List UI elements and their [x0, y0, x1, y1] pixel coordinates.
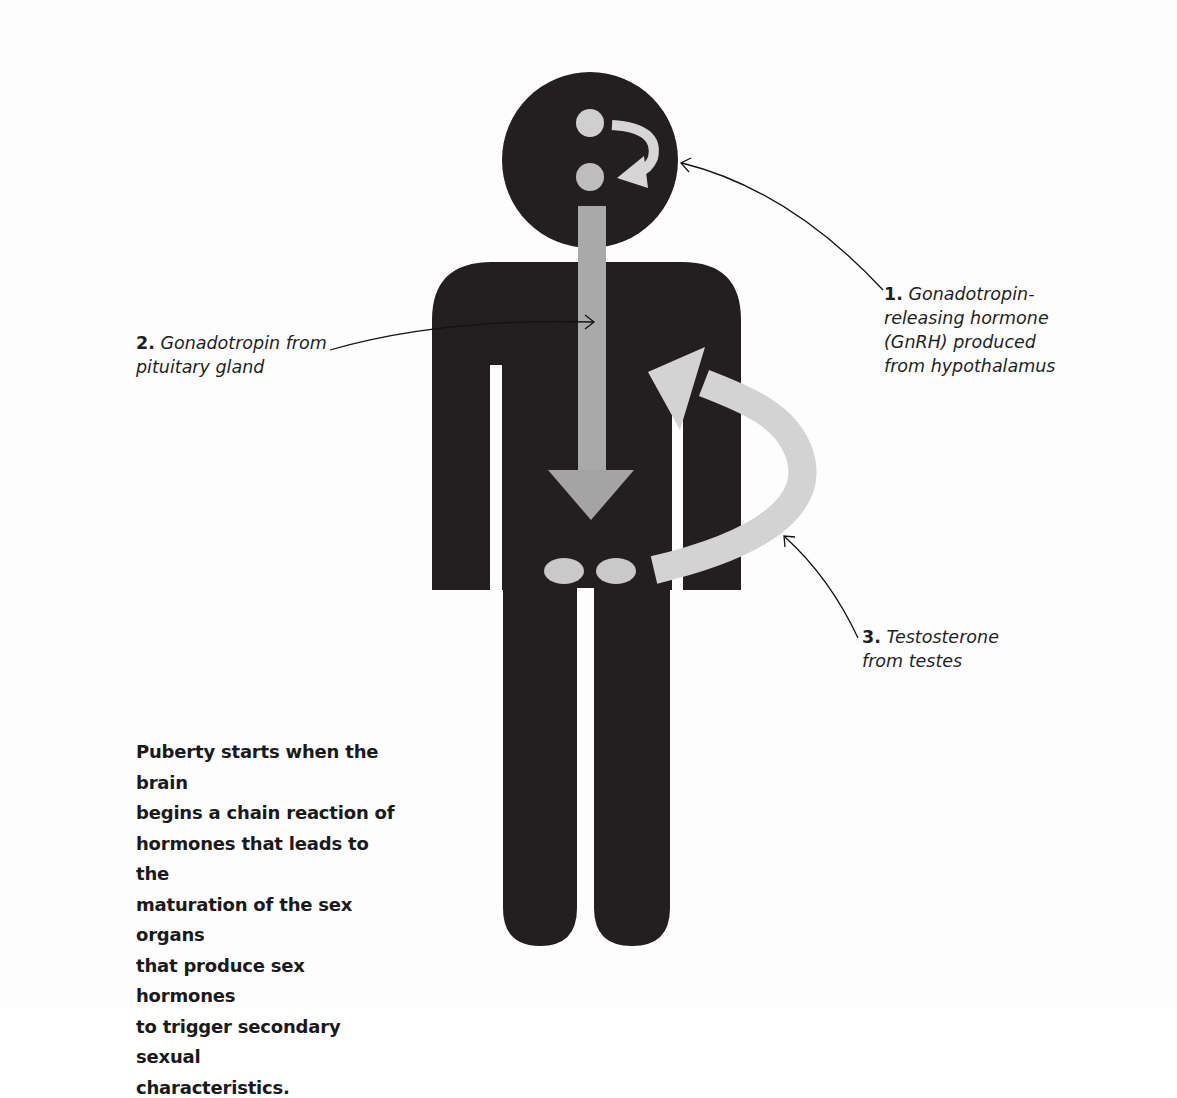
caption-line: to trigger secondary sexual: [136, 1012, 396, 1073]
label-gonadotropin: 2. Gonadotropin from pituitary gland: [136, 331, 327, 379]
caption-line: begins a chain reaction of: [136, 798, 396, 829]
right-leg: [594, 580, 670, 946]
label-3-line1: Testosterone: [886, 627, 999, 647]
label-1-line4: from hypothalamus: [884, 356, 1055, 376]
left-arm-gap: [490, 365, 502, 590]
caption-line: Puberty starts when the brain: [136, 737, 396, 798]
caption-line: characteristics.: [136, 1073, 396, 1098]
hypothalamus-gland: [576, 109, 604, 137]
label-gnrh: 1. Gonadotropin- releasing hormone (GnRH…: [884, 282, 1055, 378]
label-testosterone: 3. Testosterone from testes: [862, 625, 999, 673]
caption-text: Puberty starts when the brain begins a c…: [136, 737, 396, 1098]
leader-line-3: [785, 537, 858, 638]
label-1-number: 1.: [884, 284, 903, 304]
label-1-line2: releasing hormone: [884, 308, 1049, 328]
torso-left-shadow: [432, 560, 490, 590]
left-leg: [503, 580, 577, 946]
label-3-number: 3.: [862, 627, 881, 647]
testis-right: [596, 558, 636, 584]
label-2-number: 2.: [136, 333, 155, 353]
pituitary-gland: [576, 163, 604, 191]
caption-line: maturation of the sex organs: [136, 890, 396, 951]
gonadotropin-arrow-shaft: [578, 206, 606, 478]
testis-left: [544, 558, 584, 584]
label-1-line1: Gonadotropin-: [908, 284, 1034, 304]
label-1-line3: (GnRH) produced: [884, 332, 1036, 352]
leg-gap: [577, 588, 594, 948]
label-2-line1: Gonadotropin from: [160, 333, 326, 353]
label-2-line2: pituitary gland: [136, 357, 264, 377]
label-3-line2: from testes: [862, 651, 962, 671]
caption-line: that produce sex hormones: [136, 951, 396, 1012]
caption-line: hormones that leads to the: [136, 829, 396, 890]
